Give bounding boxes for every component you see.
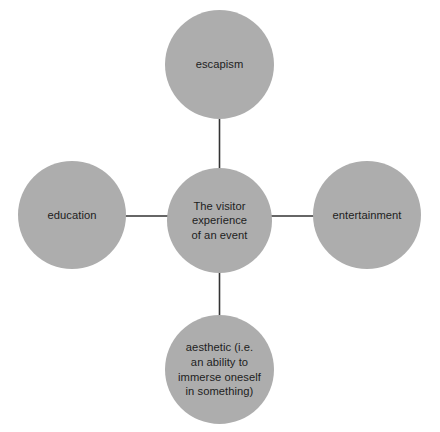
node-center-visitor-experience[interactable]: The visitor experience of an event: [167, 168, 272, 273]
node-entertainment[interactable]: entertainment: [313, 161, 421, 269]
diagram-canvas: escapism education The visitor experienc…: [0, 0, 440, 432]
node-aesthetic-label: aesthetic (i.e. an ability to immerse on…: [172, 340, 267, 398]
node-education[interactable]: education: [18, 161, 126, 269]
node-escapism[interactable]: escapism: [165, 10, 274, 119]
node-education-label: education: [42, 208, 103, 223]
node-entertainment-label: entertainment: [326, 208, 407, 223]
node-center-label: The visitor experience of an event: [186, 199, 254, 243]
node-aesthetic[interactable]: aesthetic (i.e. an ability to immerse on…: [165, 315, 274, 424]
node-escapism-label: escapism: [190, 57, 250, 72]
